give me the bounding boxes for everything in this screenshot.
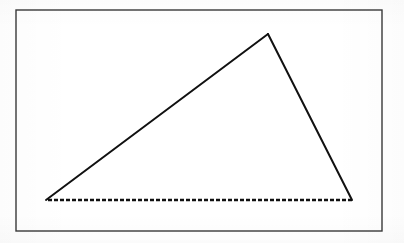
figure-canvas: Triangle inscribed in a rectangular fram…: [0, 0, 404, 243]
figure-svg: Triangle inscribed in a rectangular fram…: [0, 0, 404, 243]
frame-border: [16, 10, 382, 231]
triangle-edge-hypotenuse-left: [46, 34, 268, 200]
triangle-edge-side-right: [268, 34, 352, 200]
